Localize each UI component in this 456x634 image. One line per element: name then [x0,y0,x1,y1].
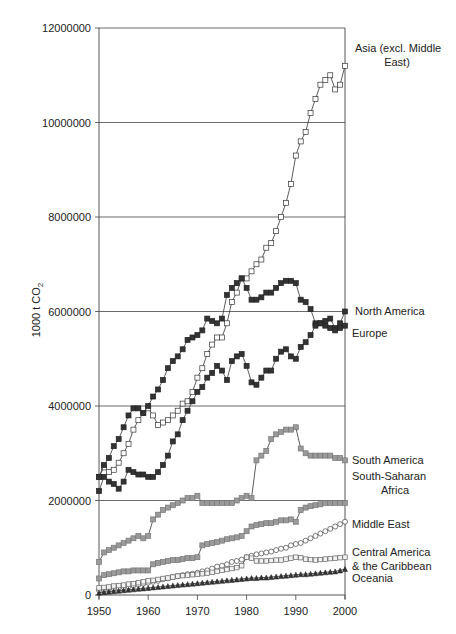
data-point-marker [215,540,220,545]
data-point-marker [116,486,121,491]
series-label: South-Saharan [352,470,426,482]
data-point-marker [185,573,190,578]
data-point-marker [279,281,284,286]
data-point-marker [215,569,220,574]
data-point-marker [264,245,269,250]
data-point-marker [313,96,318,101]
data-point-marker [234,558,239,563]
data-point-marker [185,556,190,561]
data-point-marker [333,455,338,460]
series-north-america [97,276,348,479]
data-point-marker [97,576,102,581]
data-point-marker [121,569,126,574]
data-point-marker [156,387,161,392]
data-point-marker [165,453,170,458]
data-point-marker [131,427,136,432]
data-point-marker [259,453,264,458]
data-point-marker [229,285,234,290]
data-point-marker [229,500,234,505]
data-point-marker [146,533,151,538]
data-point-marker [254,458,259,463]
data-point-marker [229,300,234,305]
data-point-marker [313,503,318,508]
data-point-marker [234,498,239,503]
data-point-marker [126,582,130,587]
data-point-marker [126,569,131,574]
y-tick-label: 4000000 [48,400,91,412]
data-point-marker [170,558,175,563]
data-point-marker [116,460,121,465]
data-point-marker [288,181,293,186]
data-point-marker [185,408,190,413]
data-point-marker [338,455,343,460]
data-point-marker [205,352,210,357]
data-point-marker [156,422,161,427]
data-point-marker [239,563,244,568]
data-point-marker [298,446,303,451]
data-point-marker [323,77,328,82]
data-point-marker [338,82,343,87]
data-point-marker [230,566,235,571]
data-point-marker [274,229,279,234]
series-label: Middle East [352,518,409,530]
data-point-marker [323,557,328,562]
data-point-marker [166,576,171,581]
data-point-marker [224,321,229,326]
x-tick-label: 2000 [333,605,357,617]
data-point-marker [180,418,185,423]
data-point-marker [200,328,205,333]
x-tick-label: 1950 [87,605,111,617]
data-point-marker [298,555,303,560]
data-point-marker [279,349,284,354]
data-point-marker [274,285,279,290]
data-point-marker [249,556,254,561]
data-point-marker [205,500,210,505]
data-point-marker [224,500,229,505]
data-point-marker [160,463,165,468]
data-point-marker [289,556,294,561]
data-point-marker [190,556,195,561]
data-point-marker [131,568,136,573]
data-point-marker [220,568,225,573]
data-point-marker [323,318,328,323]
data-point-marker [126,538,131,543]
data-point-marker [136,406,141,411]
data-point-marker [210,342,215,347]
data-point-marker [269,437,274,442]
series-label: Europe [352,327,387,339]
data-point-marker [106,572,111,577]
series-label: North America [355,305,426,317]
data-point-marker [338,326,343,331]
data-point-marker [328,73,333,78]
data-point-marker [111,481,116,486]
data-point-marker [328,500,333,505]
data-point-marker [298,139,303,144]
data-point-marker [328,526,333,531]
data-point-marker [224,537,229,542]
data-point-marker [116,437,121,442]
data-point-marker [151,517,156,522]
data-point-marker [156,470,161,475]
data-point-marker [308,333,313,338]
data-point-marker [121,479,126,484]
data-point-marker [239,276,244,281]
data-point-marker [116,583,121,588]
data-point-marker [136,418,141,423]
data-point-marker [303,505,308,510]
data-point-marker [239,496,244,501]
x-tick-label: 1960 [136,605,160,617]
data-point-marker [106,548,111,553]
data-point-marker [131,470,136,475]
data-point-marker [283,545,288,550]
data-point-marker [200,500,205,505]
data-point-marker [215,321,220,326]
data-point-marker [229,359,234,364]
data-point-marker [254,559,259,564]
data-point-marker [112,584,117,589]
data-point-marker [288,543,293,548]
data-point-marker [293,281,298,286]
data-point-marker [121,425,126,430]
data-point-marker [220,368,225,373]
data-point-marker [239,352,244,357]
data-point-marker [264,448,269,453]
